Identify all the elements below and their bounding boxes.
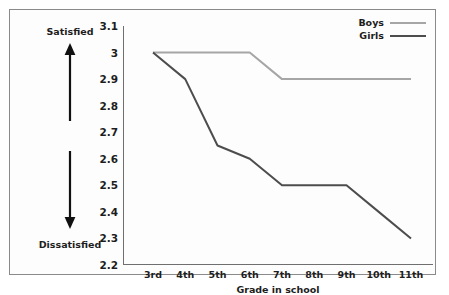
series-line-boys [153, 53, 411, 80]
y-axis-tick-label: 2.6 [99, 153, 118, 165]
x-axis-tick-label: 5th [209, 269, 227, 280]
y-axis-tick-label: 2.4 [99, 206, 118, 218]
y-axis-tick-label: 2.3 [99, 232, 118, 244]
x-axis-tick-label: 9th [338, 269, 356, 280]
x-axis-tick-label: 3rd [144, 269, 162, 280]
x-axis-tick-label: 4th [176, 269, 194, 280]
y-axis-tick-label: 3.1 [99, 20, 118, 32]
x-axis-tick-label: 7th [273, 269, 291, 280]
y-axis-tick-label: 2.9 [99, 73, 118, 85]
x-axis-tick-label: 8th [305, 269, 323, 280]
y-axis-tick-label: 2.2 [99, 259, 118, 271]
x-axis-title: Grade in school [123, 284, 433, 295]
x-axis-tick-label: 10th [366, 269, 391, 280]
y-axis-tick-label: 3 [111, 47, 118, 59]
plot-area: Grade in school 3.132.92.82.72.62.52.42.… [123, 26, 433, 265]
y-axis-tick-label: 2.5 [99, 179, 118, 191]
arrow-up-icon [63, 43, 77, 125]
arrow-down-icon [63, 151, 77, 233]
x-axis-tick-label: 6th [241, 269, 259, 280]
series-container [123, 26, 433, 265]
chart-figure: Satisfied Dissatisfied BoysGirls Grade i… [9, 9, 436, 275]
y-axis-tick-label: 2.7 [99, 126, 118, 138]
x-axis-tick-label: 11th [399, 269, 424, 280]
legend-swatch-boys [390, 22, 426, 24]
y-axis-tick-label: 2.8 [99, 100, 118, 112]
series-line-girls [153, 53, 411, 239]
